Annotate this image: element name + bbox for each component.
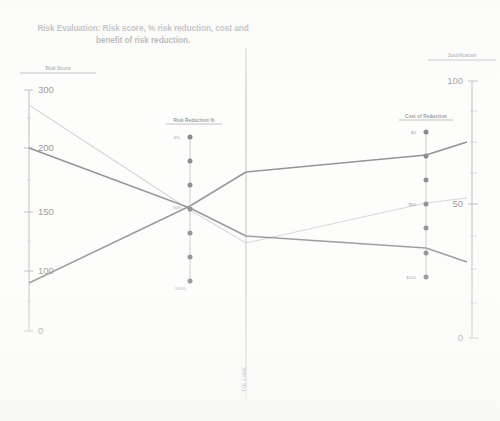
tie-line-label: TIE LINE — [241, 367, 247, 392]
cost-of-reduction-dot — [424, 226, 429, 231]
risk-score-tick-label: 150 — [38, 206, 54, 217]
risk-score-tick-label: 200 — [38, 142, 54, 153]
cost-of-reduction-dot — [424, 130, 429, 135]
risk-reduction-label-bottom: 100% — [175, 286, 186, 291]
risk-reduction-dot — [188, 135, 193, 140]
cost-of-reduction-dot — [424, 251, 429, 256]
risk-reduction-dot — [188, 255, 193, 260]
series-risk-after-reduction — [29, 148, 467, 262]
cost-of-reduction-label-mid: $50 — [409, 202, 417, 207]
cost-of-reduction-dot — [424, 202, 429, 207]
justification-tick-label: 0 — [458, 332, 463, 343]
risk-reduction-dot — [188, 207, 193, 212]
cost-of-reduction-label-bottom: $100 — [406, 275, 416, 280]
risk-score-tick-label: 0 — [38, 325, 43, 336]
cost-of-reduction-axis-title: Cost of Reduction — [405, 114, 447, 119]
risk-reduction-dot — [188, 159, 193, 164]
cost-of-reduction-dot — [424, 154, 429, 159]
justification-axis-title: Justification — [447, 53, 476, 58]
risk-reduction-dot — [188, 183, 193, 188]
risk-reduction-label-mid: 50% — [173, 205, 182, 210]
tie-line-axis: TIE LINE — [241, 48, 247, 400]
risk-reduction-dot — [188, 231, 193, 236]
risk-reduction-label-top: 0% — [174, 135, 180, 140]
risk-evaluation-figure: TIE LINE Risk Score 300 200 150 100 0 — [0, 0, 500, 421]
cost-of-reduction-dot — [424, 275, 429, 280]
series-benefit-of-reduction — [29, 142, 467, 283]
risk-score-tick-label: 300 — [38, 84, 54, 95]
risk-reduction-axis: Risk Reduction % 0% 50% 100% — [166, 118, 222, 291]
series-lines — [29, 105, 467, 283]
justification-tick-label: 100 — [447, 75, 463, 86]
risk-reduction-axis-title: Risk Reduction % — [173, 118, 214, 123]
cost-of-reduction-dot — [424, 178, 429, 183]
diagram-page: Risk Evaluation: Risk score, % risk redu… — [0, 0, 500, 421]
justification-axis: Justification 100 50 0 — [428, 53, 496, 343]
risk-reduction-dot — [188, 279, 193, 284]
series-residual-light — [29, 105, 467, 243]
cost-of-reduction-label-top: $0 — [411, 130, 416, 135]
risk-score-axis-title: Risk Score — [45, 66, 71, 71]
